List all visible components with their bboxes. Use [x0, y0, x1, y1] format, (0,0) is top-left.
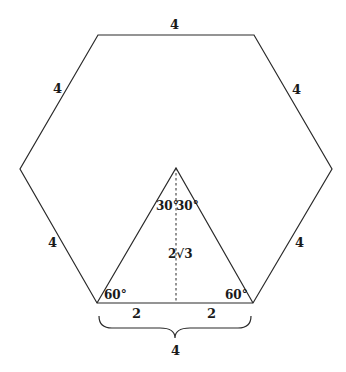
base-angle-left: 60°	[104, 288, 127, 302]
height-label: 2√3	[168, 247, 193, 261]
side-label-top: 4	[170, 17, 179, 32]
base-angle-right: 60°	[225, 288, 248, 302]
inner-triangle	[97, 168, 253, 303]
bottom-brace	[99, 316, 251, 338]
brace-label: 4	[171, 343, 180, 358]
hexagon-diagram: 4 4 4 4 4 30° 30° 60° 60° 2√3 2 2 4	[0, 0, 346, 372]
apex-angle-right: 30°	[176, 199, 199, 213]
side-label-lower-left: 4	[48, 235, 57, 250]
side-label-upper-left: 4	[53, 81, 62, 96]
half-base-label-right: 2	[207, 306, 216, 321]
half-base-label-left: 2	[132, 306, 141, 321]
side-label-lower-right: 4	[295, 235, 304, 250]
side-label-upper-right: 4	[292, 82, 301, 97]
